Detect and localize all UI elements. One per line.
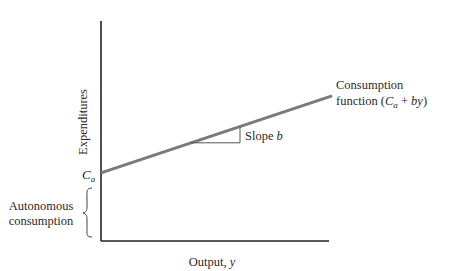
- brace-label-line2: consumption: [9, 214, 74, 228]
- series-label-by: by: [411, 94, 423, 108]
- x-axis-label: Output, y: [189, 255, 236, 269]
- consumption-function-diagram: Expenditures Output, y Slope b Ca Consum…: [0, 0, 455, 271]
- slope-label-var: b: [277, 129, 283, 143]
- series-label-line1: Consumption: [336, 78, 404, 92]
- series-label-close: ): [423, 94, 427, 108]
- brace-label-line1: Autonomous: [9, 199, 74, 213]
- x-axis-label-var: y: [228, 255, 236, 269]
- x-axis-label-text: Output,: [189, 255, 230, 269]
- series-label-plus: +: [398, 94, 411, 108]
- intercept-label-sub: a: [91, 174, 96, 184]
- slope-label-text: Slope: [245, 129, 277, 143]
- series-label-line2: function (Ca + by): [336, 94, 427, 110]
- intercept-label: Ca: [82, 167, 96, 184]
- series-label-prefix: function (: [336, 94, 385, 108]
- slope-label: Slope b: [245, 129, 283, 143]
- brace: [83, 188, 92, 237]
- consumption-function-line: [101, 96, 332, 173]
- intercept-label-main: C: [82, 167, 91, 182]
- y-axis-label: Expenditures: [76, 89, 90, 155]
